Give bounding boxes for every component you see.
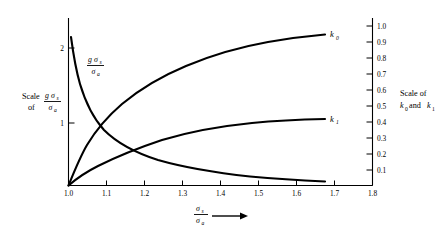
- curve-label-k0: k 0: [330, 29, 339, 41]
- right-tick-label-9: 1.0: [377, 22, 387, 31]
- x-axis-arrow-icon: [212, 213, 248, 220]
- xaxis-frac-sigma-s: σ: [196, 204, 201, 213]
- curve-label-k1-letter: k: [330, 114, 334, 124]
- x-axis-ticks: [69, 181, 373, 186]
- left-axis-title-of: of: [28, 103, 35, 112]
- x-axis-tick-labels: 1.0 1.1 1.2 1.3 1.4 1.5 1.6 1.7 1.8: [64, 189, 378, 198]
- left-tick-label-2: 2: [60, 44, 64, 53]
- x-tick-label-6: 1.6: [292, 189, 302, 198]
- gfrac-sigma-a: σ: [92, 67, 97, 76]
- left-axis-frac-g: g: [45, 91, 49, 100]
- xaxis-frac-sub-a: a: [202, 220, 205, 226]
- figure-page: 1.0 1.1 1.2 1.3 1.4 1.5 1.6 1.7 1.8 1 2: [0, 0, 445, 237]
- axes-frame: [69, 18, 373, 186]
- gfrac-g: g: [88, 55, 92, 64]
- right-tick-label-5: 0.6: [377, 86, 387, 95]
- curve-label-k0-letter: k: [330, 29, 334, 39]
- curve-label-k1-subscript: 1: [336, 119, 339, 125]
- right-tick-label-7: 0.8: [377, 54, 387, 63]
- x-tick-label-4: 1.4: [216, 189, 226, 198]
- left-axis-ticks: 1 2: [60, 44, 74, 128]
- left-axis-title: Scale of g σ s σ a: [22, 91, 61, 113]
- left-axis-frac-sub-s: s: [57, 95, 59, 101]
- gfrac-sub-a: a: [97, 71, 100, 77]
- left-axis-title-scale: Scale: [22, 92, 40, 101]
- right-axis-title-k0-sub: 0: [405, 106, 408, 112]
- right-axis-title-k1: k: [427, 101, 431, 110]
- right-tick-label-1: 0.2: [377, 150, 387, 159]
- right-tick-label-2: 0.3: [377, 134, 387, 143]
- left-axis-frac-sigma-a: σ: [49, 103, 54, 112]
- right-axis-title-line1: Scale of: [400, 89, 427, 98]
- x-tick-label-7: 1.7: [330, 189, 340, 198]
- x-tick-label-3: 1.3: [178, 189, 188, 198]
- x-tick-label-2: 1.2: [140, 189, 150, 198]
- left-tick-label-1: 1: [60, 119, 64, 128]
- chart-figure: 1.0 1.1 1.2 1.3 1.4 1.5 1.6 1.7 1.8 1 2: [0, 0, 445, 237]
- curve-k1: [69, 119, 326, 186]
- curve-label-k1: k 1: [330, 114, 339, 126]
- right-tick-label-6: 0.7: [377, 70, 387, 79]
- x-axis-title: σ s σ a: [194, 204, 248, 226]
- right-axis-title: Scale of k 0 and k 1: [400, 89, 435, 112]
- right-axis-title-and: and: [409, 101, 421, 110]
- right-axis-title-k1-sub: 1: [432, 106, 435, 112]
- curve-label-g-sigma-ratio: g σ s σ a: [87, 55, 104, 77]
- curve-label-k0-subscript: 0: [336, 35, 339, 41]
- xaxis-frac-sub-s: s: [202, 208, 204, 214]
- right-axis-title-k0: k: [400, 101, 404, 110]
- right-axis-ticks: 0.1 0.2 0.3 0.4 0.5 0.6 0.7 0.8 0.9 1.0: [367, 22, 387, 175]
- xaxis-frac-sigma-a: σ: [196, 216, 201, 225]
- x-axis-arrow-head: [240, 213, 248, 220]
- right-tick-label-8: 0.9: [377, 38, 387, 47]
- x-tick-label-1: 1.1: [102, 189, 112, 198]
- left-axis-frac-sub-a: a: [54, 107, 57, 113]
- right-tick-label-4: 0.5: [377, 102, 387, 111]
- right-tick-label-0: 0.1: [377, 166, 387, 175]
- x-tick-label-8: 1.8: [368, 189, 378, 198]
- curve-k0: [69, 35, 326, 186]
- x-tick-label-5: 1.5: [254, 189, 264, 198]
- right-tick-label-3: 0.4: [377, 118, 387, 127]
- x-tick-label-0: 1.0: [64, 189, 74, 198]
- gfrac-sub-s: s: [100, 59, 102, 65]
- gfrac-sigma-s: σ: [94, 55, 99, 64]
- left-axis-frac-sigma-s: σ: [51, 91, 56, 100]
